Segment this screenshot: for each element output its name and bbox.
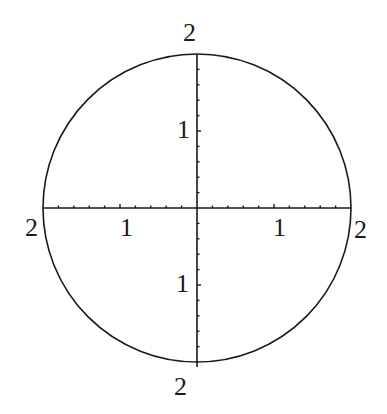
label-right: 2	[354, 215, 367, 244]
label-y-bottom-mid: 1	[176, 269, 189, 298]
label-y-top-mid: 1	[177, 115, 190, 144]
label-top: 2	[183, 18, 196, 47]
circle-axes-diagram: 2 2 2 2 1 1 1 1	[0, 0, 387, 414]
label-bottom: 2	[174, 372, 187, 401]
label-left: 2	[25, 213, 38, 242]
label-x-left-mid: 1	[120, 213, 133, 242]
label-x-right-mid: 1	[273, 213, 286, 242]
